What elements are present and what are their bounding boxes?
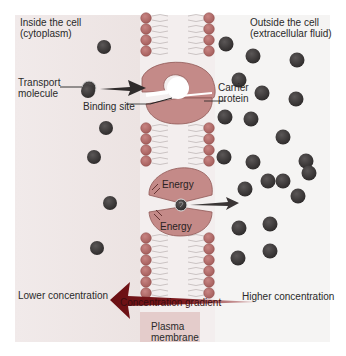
lipid-head-icon xyxy=(141,134,152,145)
molecule-icon xyxy=(263,244,278,259)
lipid-head-icon xyxy=(141,46,152,57)
molecule-icon xyxy=(238,182,253,197)
concentration-gradient-label: Concentration gradient xyxy=(120,297,221,308)
lipid-head-icon xyxy=(204,24,215,35)
lipid-head-icon xyxy=(141,13,152,24)
molecule-icon xyxy=(261,174,276,189)
lipid-head-icon xyxy=(141,156,152,167)
outside-cell-label: Outside the cell(extracellular fluid) xyxy=(250,17,332,39)
lipid-head-icon xyxy=(204,13,215,24)
diagram-canvas: Energy Energy Concentration gradient Ins… xyxy=(0,0,346,356)
lipid-head-icon xyxy=(141,123,152,134)
molecule-icon xyxy=(263,217,278,232)
molecule-icon xyxy=(219,37,234,52)
carrier-protein-open xyxy=(142,62,215,124)
molecule-icon xyxy=(244,112,259,127)
lipid-head-icon xyxy=(204,266,215,277)
active-transport-diagram: Energy Energy Concentration gradient xyxy=(0,0,346,356)
lipid-head-icon xyxy=(141,277,152,288)
lipid-head-icon xyxy=(204,134,215,145)
energy-label-bottom: Energy xyxy=(160,221,192,232)
molecule-icon xyxy=(218,110,233,125)
molecule-icon xyxy=(276,174,291,189)
lipid-head-icon xyxy=(141,244,152,255)
lipid-head-icon xyxy=(204,156,215,167)
binding-site-label: Binding site xyxy=(83,101,135,112)
molecule-icon xyxy=(255,86,270,101)
higher-concentration-label: Higher concentration xyxy=(242,291,334,302)
lipid-head-icon xyxy=(204,277,215,288)
molecule-icon xyxy=(97,40,111,54)
lipid-head-icon xyxy=(204,244,215,255)
transport-molecule-label: Transportmolecule xyxy=(18,77,60,99)
plasma-membrane-label: Plasmamembrane xyxy=(151,321,199,343)
molecule-icon xyxy=(90,241,104,255)
inside-cell-label: Inside the cell(cytoplasm) xyxy=(20,17,81,39)
lipid-head-icon xyxy=(204,46,215,57)
lipid-head-icon xyxy=(141,233,152,244)
molecule-icon xyxy=(87,150,101,164)
lipid-head-icon xyxy=(204,35,215,46)
lipid-head-icon xyxy=(204,145,215,156)
lipid-head-icon xyxy=(141,145,152,156)
lipid-head-icon xyxy=(141,35,152,46)
carrier-protein-label: Carrierprotein xyxy=(218,82,249,104)
molecule-icon xyxy=(291,189,306,204)
molecule-icon xyxy=(276,130,291,145)
lipid-head-icon xyxy=(141,255,152,266)
molecule-icon xyxy=(290,53,305,68)
lipid-head-icon xyxy=(204,123,215,134)
lipid-head-icon xyxy=(141,266,152,277)
lipid-head-icon xyxy=(141,24,152,35)
energy-label-top: Energy xyxy=(162,179,194,190)
molecule-icon xyxy=(246,49,261,64)
molecule-icon xyxy=(217,150,232,165)
molecule-icon xyxy=(302,166,317,181)
molecule-icon xyxy=(232,221,247,236)
molecule-icon xyxy=(81,84,95,98)
lipid-head-icon xyxy=(204,255,215,266)
lipid-head-icon xyxy=(204,233,215,244)
bound-molecule-icon xyxy=(175,199,187,211)
molecule-icon xyxy=(289,92,304,107)
molecule-icon xyxy=(231,251,246,266)
lower-concentration-label: Lower concentration xyxy=(18,290,108,301)
molecule-icon xyxy=(103,196,117,210)
molecule-icon xyxy=(246,155,261,170)
molecule-icon xyxy=(99,121,113,135)
